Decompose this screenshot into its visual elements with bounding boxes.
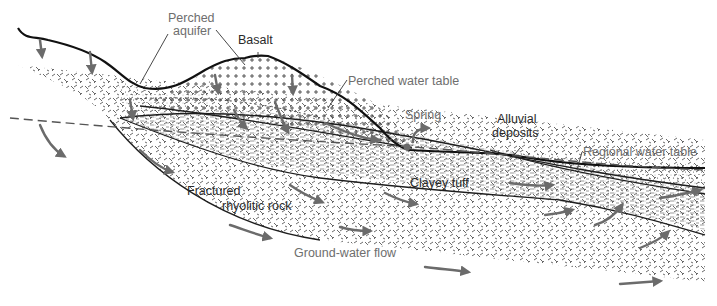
label-groundwater-flow: Ground-water flow bbox=[294, 246, 397, 260]
hydrogeologic-cross-section: Perched aquifer Basalt Perched water tab… bbox=[0, 0, 717, 306]
spring-marker bbox=[404, 144, 411, 151]
label-alluvial-2: deposits bbox=[492, 126, 539, 140]
label-spring: Spring bbox=[405, 108, 441, 122]
label-regional-water-table: Regional water table bbox=[583, 145, 697, 159]
label-alluvial-1: Alluvial bbox=[497, 112, 537, 126]
label-clayey-tuff: Clayey tuff bbox=[410, 176, 469, 190]
label-perched-aquifer-1: Perched bbox=[168, 11, 215, 25]
label-basalt: Basalt bbox=[238, 33, 273, 47]
label-perched-aquifer-2: aquifer bbox=[173, 24, 211, 38]
leader-perched-aquifer bbox=[140, 34, 168, 84]
label-fractured-1: Fractured bbox=[187, 184, 241, 198]
label-perched-water-table: Perched water table bbox=[348, 74, 459, 88]
label-fractured-2: rhyolitic rock bbox=[222, 199, 292, 213]
